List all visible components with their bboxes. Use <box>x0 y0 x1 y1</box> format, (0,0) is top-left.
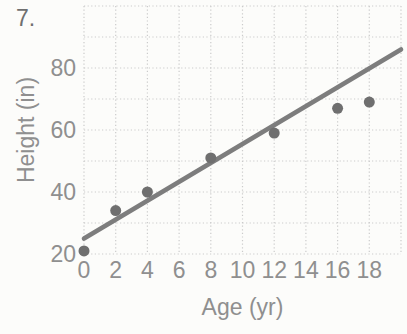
scatter-plot-figure: 7. 20406080 024681012141618 Height (in) … <box>0 0 407 334</box>
data-point <box>79 245 90 256</box>
data-point <box>110 205 121 216</box>
trend-line <box>84 49 401 238</box>
data-point <box>364 97 375 108</box>
y-axis-label: Height (in) <box>13 77 39 183</box>
data-point <box>205 152 216 163</box>
data-point <box>332 103 343 114</box>
x-tick-label: 18 <box>347 257 391 283</box>
x-axis-label: Age (yr) <box>84 294 401 320</box>
plot-area <box>0 0 407 334</box>
data-point <box>142 187 153 198</box>
data-point <box>269 128 280 139</box>
